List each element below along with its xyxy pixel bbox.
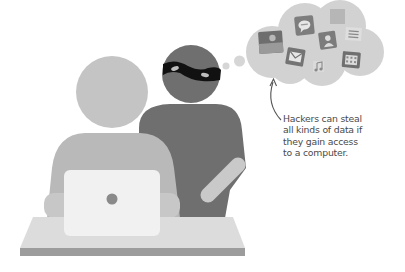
calendar-icon bbox=[342, 51, 361, 69]
mail-icon bbox=[285, 47, 306, 67]
photo-icon bbox=[258, 30, 283, 54]
chat-icon bbox=[294, 15, 315, 36]
user-head bbox=[76, 56, 148, 128]
hacker-illustration: Hackers can steal all kinds of data if t… bbox=[0, 0, 405, 272]
caption-line: to a computer. bbox=[283, 147, 362, 158]
caption-text: Hackers can steal all kinds of data if t… bbox=[283, 113, 362, 158]
music-icon bbox=[313, 61, 324, 72]
caption-line: all kinds of data if bbox=[283, 124, 362, 135]
thought-cloud bbox=[223, 0, 385, 86]
pointer-arrow bbox=[270, 79, 281, 120]
notes-icon bbox=[345, 27, 362, 41]
thought-bubble-small bbox=[223, 63, 230, 70]
caption-line: they gain access bbox=[283, 136, 362, 147]
gallery-icon bbox=[330, 9, 345, 24]
caption-line: Hackers can steal bbox=[283, 113, 362, 124]
contact-icon bbox=[318, 31, 337, 50]
laptop-logo-icon bbox=[107, 194, 118, 205]
thought-bubble-large bbox=[234, 56, 245, 67]
laptop bbox=[64, 170, 160, 236]
